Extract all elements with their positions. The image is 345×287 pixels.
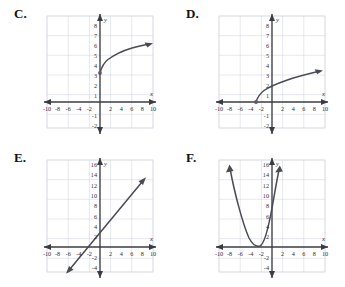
y-tick-label: -2 <box>264 254 269 261</box>
y-tick-label: 3 <box>266 72 269 79</box>
point-marker-c <box>98 71 102 75</box>
y-tick-label: 16 <box>263 161 269 168</box>
x-tick-label: -10 <box>43 105 51 112</box>
y-tick-label: -2 <box>92 122 97 129</box>
x-tick-label: -10 <box>215 105 223 112</box>
y-tick-label: 6 <box>94 213 97 220</box>
y-tick-label: 4 <box>94 223 97 230</box>
y-tick-label: 10 <box>263 192 269 199</box>
y-tick-label: 5 <box>266 52 269 59</box>
x-tick-label: 6 <box>130 105 133 112</box>
x-tick-label: 4 <box>292 250 295 257</box>
x-axis-label: x <box>149 235 153 242</box>
x-tick-label: -2 <box>87 105 92 112</box>
x-tick-label: 8 <box>141 250 144 257</box>
y-tick-label: 6 <box>266 213 269 220</box>
y-tick-label: -2 <box>92 254 97 261</box>
x-tick-label: -6 <box>238 250 243 257</box>
panel-label-e: E. <box>14 150 26 166</box>
x-axis-label: x <box>321 235 325 242</box>
y-tick-label: -1 <box>92 112 97 119</box>
graph-f-svg: -10 -8 -6 -4 -2 2 4 6 8 10 -4 -2 2 4 6 <box>208 150 336 282</box>
y-tick-label: 2 <box>266 233 269 240</box>
x-tick-label: 10 <box>322 105 328 112</box>
x-tick-label: -4 <box>248 105 253 112</box>
y-tick-label: -1 <box>264 112 269 119</box>
graph-c-svg: -10 -8 -6 -4 -2 2 4 6 8 10 -2 -1 1 2 3 <box>36 6 164 138</box>
x-tick-label: -10 <box>215 250 223 257</box>
x-tick-label: 8 <box>141 105 144 112</box>
y-axis-label: y <box>103 16 107 23</box>
x-tick-label: 6 <box>302 250 305 257</box>
x-tick-label: -6 <box>66 250 71 257</box>
y-tick-label: 8 <box>266 22 269 29</box>
x-tick-label: 6 <box>130 250 133 257</box>
x-tick-label: 10 <box>322 250 328 257</box>
y-tick-label: 12 <box>91 182 97 189</box>
x-axis-label: x <box>149 90 153 97</box>
x-tick-label: 2 <box>281 250 284 257</box>
panel-f: F. <box>172 144 344 287</box>
x-tick-label: -2 <box>259 105 264 112</box>
graph-c: -10 -8 -6 -4 -2 2 4 6 8 10 -2 -1 1 2 3 <box>36 6 164 138</box>
y-tick-label: 12 <box>263 182 269 189</box>
x-tick-label: 4 <box>292 105 295 112</box>
y-tick-label: 2 <box>266 82 269 89</box>
x-tick-label: 4 <box>120 250 123 257</box>
x-tick-label: -6 <box>66 105 71 112</box>
y-tick-label: 4 <box>266 62 269 69</box>
graph-d-svg: -10 -8 -6 -4 -2 2 4 6 8 10 -2 -1 1 2 3 <box>208 6 336 138</box>
x-axis-label: x <box>321 90 325 97</box>
y-tick-label: 6 <box>94 42 97 49</box>
x-tick-label: -8 <box>227 250 232 257</box>
y-tick-label: 7 <box>94 32 97 39</box>
y-tick-label: -2 <box>264 122 269 129</box>
y-tick-label: 8 <box>94 202 97 209</box>
graph-f: -10 -8 -6 -4 -2 2 4 6 8 10 -4 -2 2 4 6 <box>208 150 336 282</box>
y-tick-label: 8 <box>94 22 97 29</box>
x-tick-label: -8 <box>55 250 60 257</box>
y-tick-label: 14 <box>91 171 97 178</box>
y-tick-label: 2 <box>94 233 97 240</box>
x-tick-label: -4 <box>248 250 253 257</box>
panel-e: E. <box>0 144 172 287</box>
graph-e: -10 -8 -6 -4 -2 2 4 6 8 10 -4 -2 2 4 6 <box>36 150 164 282</box>
y-tick-label: -4 <box>264 264 269 271</box>
panel-d: D. <box>172 0 344 143</box>
x-tick-label: 6 <box>302 105 305 112</box>
x-tick-label: 8 <box>313 250 316 257</box>
y-tick-label: 3 <box>94 72 97 79</box>
panel-label-c: C. <box>14 6 27 22</box>
panel-c: C. <box>0 0 172 143</box>
y-tick-label: 6 <box>266 42 269 49</box>
x-tick-label: -8 <box>227 105 232 112</box>
x-tick-label: 8 <box>313 105 316 112</box>
y-tick-label: 10 <box>91 192 97 199</box>
x-tick-label: 2 <box>281 105 284 112</box>
panel-label-d: D. <box>186 6 199 22</box>
y-tick-label: 4 <box>94 62 97 69</box>
x-tick-label: -4 <box>76 250 81 257</box>
y-axis-label: y <box>275 16 279 23</box>
x-tick-label: -10 <box>43 250 51 257</box>
y-tick-label: -4 <box>92 264 97 271</box>
x-tick-label: -6 <box>238 105 243 112</box>
worksheet-page: C. <box>0 0 345 287</box>
graph-e-svg: -10 -8 -6 -4 -2 2 4 6 8 10 -4 -2 2 4 6 <box>36 150 164 282</box>
y-tick-label: 1 <box>94 92 97 99</box>
x-tick-label: 10 <box>150 250 156 257</box>
point-marker-d <box>254 100 258 104</box>
y-tick-label: 4 <box>266 223 269 230</box>
y-tick-label: 7 <box>266 32 269 39</box>
y-tick-label: 8 <box>266 202 269 209</box>
x-tick-label: 10 <box>150 105 156 112</box>
y-tick-label: 2 <box>94 82 97 89</box>
y-axis-label: y <box>275 160 279 167</box>
y-tick-label: 1 <box>266 92 269 99</box>
x-tick-label: -4 <box>76 105 81 112</box>
x-tick-label: 2 <box>109 250 112 257</box>
x-tick-label: -8 <box>55 105 60 112</box>
x-tick-label: 4 <box>120 105 123 112</box>
y-axis-label: y <box>103 160 107 167</box>
graph-d: -10 -8 -6 -4 -2 2 4 6 8 10 -2 -1 1 2 3 <box>208 6 336 138</box>
